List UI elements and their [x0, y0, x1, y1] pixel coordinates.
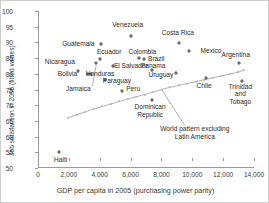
data-point-marker — [174, 71, 178, 75]
y-tick-label: 95 — [0, 23, 13, 30]
data-point-marker — [142, 57, 146, 61]
y-tick-label: 100 — [0, 8, 13, 15]
trend-line-marker — [110, 103, 112, 105]
data-point-label: Uruguay — [148, 71, 173, 78]
y-tick-label: 90 — [0, 39, 13, 46]
data-point-marker — [129, 34, 133, 38]
trend-line-marker — [169, 86, 171, 88]
y-tick-label: 75 — [0, 86, 13, 93]
trend-line-marker — [67, 117, 69, 119]
x-tick-label: 8,000 — [153, 171, 170, 178]
data-point-label: TrinidadandTobago — [229, 83, 253, 105]
trend-line-marker — [76, 114, 78, 116]
y-tick-label: 60 — [0, 133, 13, 140]
data-point-label: DominicanRepublic — [135, 103, 166, 118]
trend-line-marker — [161, 89, 163, 91]
data-point-marker — [99, 42, 103, 46]
trend-line-marker — [135, 96, 137, 98]
x-tick-label: 10,000 — [182, 171, 202, 178]
trend-line-marker — [127, 98, 129, 100]
trend-line-marker — [144, 94, 146, 96]
data-point-label: Bolivia — [58, 70, 77, 77]
job-satisfaction-scatter-chart: Job satisfaction in 2006 (fitted values)… — [0, 0, 269, 203]
x-tick-mark — [38, 158, 39, 161]
y-tick-label: 65 — [0, 117, 13, 124]
trend-line-marker — [243, 69, 245, 71]
x-tick-label: 2,000 — [61, 171, 78, 178]
trend-line-marker — [101, 105, 103, 107]
x-tick-mark — [192, 158, 193, 161]
data-point-marker — [237, 61, 241, 65]
x-tick-label: 12,000 — [213, 171, 233, 178]
data-point-marker — [177, 41, 181, 45]
data-point-label: Guatemala — [62, 41, 94, 48]
x-tick-mark — [131, 158, 132, 161]
y-tick-label: 70 — [0, 102, 13, 109]
trend-line-marker — [229, 73, 231, 75]
trend-line-marker — [84, 111, 86, 113]
data-point-marker — [119, 89, 123, 93]
data-point-label: Panama — [141, 63, 166, 70]
data-point-label: Costa Rica — [162, 29, 194, 36]
data-point-marker — [98, 57, 102, 61]
data-point-label: Paraguay — [103, 78, 131, 85]
y-tick-label: 80 — [0, 70, 13, 77]
x-tick-mark — [223, 158, 224, 161]
trend-line-marker — [152, 91, 154, 93]
data-point-label: Venezuela — [112, 21, 143, 28]
data-point-label: Peru — [126, 85, 140, 92]
trend-line-marker — [212, 77, 214, 79]
trend-line-marker — [237, 71, 239, 73]
data-point-label: Jamaica — [66, 85, 91, 92]
data-point-label: Haiti — [54, 157, 67, 164]
trend-annotation-label: World pattern excludingLatin America — [160, 125, 229, 141]
x-tick-mark — [254, 158, 255, 161]
x-tick-mark — [161, 158, 162, 161]
x-tick-mark — [100, 158, 101, 161]
x-tick-mark — [69, 158, 70, 161]
data-point-label: Mexico — [201, 47, 222, 54]
plot-area: HaitiGuatemalaVenezuelaCosta RicaMexicoN… — [38, 11, 254, 168]
data-point-label: Nicaragua — [45, 58, 75, 65]
trend-line-marker — [93, 108, 95, 110]
y-tick-label: 55 — [0, 149, 13, 156]
data-point-marker — [57, 150, 61, 154]
x-tick-label: 6,000 — [122, 171, 139, 178]
trend-line-marker — [178, 84, 180, 86]
data-point-marker — [150, 97, 154, 101]
trend-line-marker — [186, 83, 188, 85]
data-point-label: Chile — [197, 82, 212, 89]
x-tick-label: 4,000 — [91, 171, 108, 178]
data-point-marker — [94, 61, 98, 65]
y-tick-mark — [35, 168, 38, 169]
data-point-label: Colombia — [128, 48, 156, 55]
x-axis-label: GDP per capita in 2005 (purchasing power… — [1, 186, 269, 195]
data-point-label: Ecuador — [97, 48, 122, 55]
x-tick-label: 14,000 — [244, 171, 264, 178]
y-tick-label: 85 — [0, 55, 13, 62]
trend-line-marker — [118, 100, 120, 102]
trend-line-marker — [220, 75, 222, 77]
x-tick-label: 0 — [36, 171, 40, 178]
data-point-marker — [187, 48, 191, 52]
y-tick-label: 50 — [0, 165, 13, 172]
data-point-label: Argentina — [222, 51, 250, 58]
